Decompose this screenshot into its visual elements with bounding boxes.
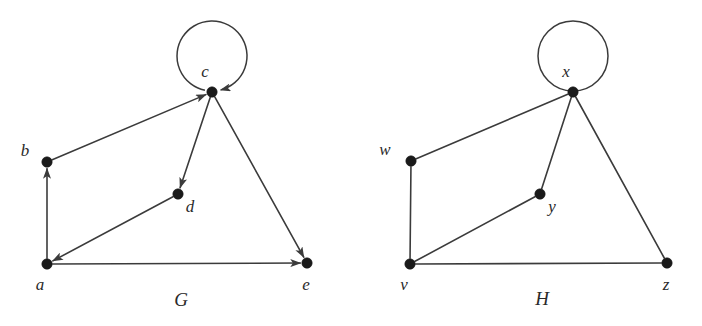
vertex-label-v: v xyxy=(400,275,408,294)
graph-canvas: abcdevwxyz GH xyxy=(0,0,702,326)
vertex-label-z: z xyxy=(662,275,670,294)
vertex-label-b: b xyxy=(21,141,30,160)
graph-name-G: G xyxy=(174,289,188,310)
edge-y-v xyxy=(415,197,535,262)
vertex-label-x: x xyxy=(561,62,570,81)
edge-w-x xyxy=(416,94,568,159)
vertex-label-e: e xyxy=(302,275,310,294)
vertex-b xyxy=(42,157,52,167)
vertex-label-y: y xyxy=(546,197,556,216)
edges-layer xyxy=(47,94,664,264)
edge-x-z xyxy=(576,97,665,258)
vertex-label-d: d xyxy=(186,197,195,216)
self-loop-c xyxy=(177,21,247,90)
edge-x-y xyxy=(542,97,571,188)
edge-v-w xyxy=(410,167,411,259)
edge-a-e xyxy=(53,263,301,264)
edge-c-d xyxy=(180,97,210,187)
graph-figure: abcdevwxyz GH xyxy=(0,0,702,326)
vertex-v xyxy=(405,259,415,269)
vertices-layer xyxy=(42,87,672,269)
graph-name-H: H xyxy=(534,288,550,309)
edge-c-e xyxy=(215,97,304,257)
vertex-d xyxy=(173,189,183,199)
vertex-label-a: a xyxy=(36,275,45,294)
vertex-a xyxy=(42,259,52,269)
vertex-x xyxy=(568,87,578,97)
self-loops-layer xyxy=(177,21,608,91)
vertex-w xyxy=(406,156,416,166)
vertex-label-c: c xyxy=(201,62,209,81)
edge-d-a xyxy=(53,197,173,261)
edge-b-c xyxy=(52,95,206,160)
graph-names-layer: GH xyxy=(174,288,550,310)
self-loop-x xyxy=(538,21,608,91)
vertex-y xyxy=(535,189,545,199)
edge-v-z xyxy=(416,263,662,264)
vertex-z xyxy=(662,258,672,268)
vertex-e xyxy=(302,258,312,268)
vertex-label-w: w xyxy=(379,140,391,159)
vertex-c xyxy=(207,87,217,97)
